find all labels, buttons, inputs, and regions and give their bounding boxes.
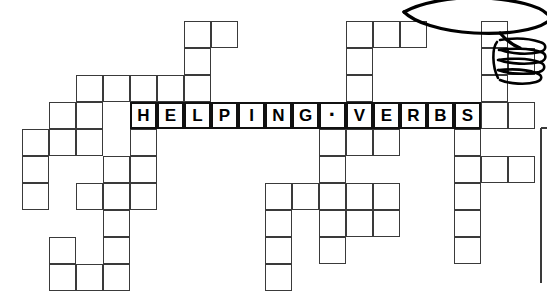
crossword-cell-3-6[interactable]: [103, 183, 130, 210]
crossword-cell-16-4[interactable]: [454, 129, 481, 156]
crossword-cell-6-2[interactable]: [184, 75, 211, 102]
crossword-cell-3-8[interactable]: [103, 237, 130, 264]
crossword-cell-4-6[interactable]: [130, 183, 157, 210]
crossword-cell-letter-13-3[interactable]: E: [373, 102, 400, 129]
crossword-cell-0-4[interactable]: [22, 129, 49, 156]
crossword-cell-4-2[interactable]: [130, 75, 157, 102]
crossword-cell-letter-16-3[interactable]: S: [454, 102, 481, 129]
cell-letter-glyph: ·: [329, 104, 336, 126]
crossword-cell-18-5[interactable]: [508, 156, 535, 183]
crossword-cell-13-7[interactable]: [373, 210, 400, 237]
crossword-cell-17-1[interactable]: [481, 48, 508, 75]
cell-letter-glyph: V: [354, 107, 365, 124]
crossword-cell-16-5[interactable]: [454, 156, 481, 183]
crossword-cell-13-0[interactable]: [373, 21, 400, 48]
crossword-cell-7-0[interactable]: [211, 21, 238, 48]
crossword-cell-12-7[interactable]: [346, 210, 373, 237]
crossword-cell-0-5[interactable]: [22, 156, 49, 183]
crossword-cell-letter-14-3[interactable]: R: [400, 102, 427, 129]
crossword-cell-14-0[interactable]: [400, 21, 427, 48]
crossword-cell-2-3[interactable]: [76, 102, 103, 129]
crossword-cell-12-0[interactable]: [346, 21, 373, 48]
crossword-cell-18-3[interactable]: [508, 102, 535, 129]
crossword-cell-1-9[interactable]: [49, 264, 76, 291]
crossword-cell-letter-7-3[interactable]: P: [211, 102, 238, 129]
crossword-cell-16-6[interactable]: [454, 183, 481, 210]
crossword-cell-letter-10-3[interactable]: G: [292, 102, 319, 129]
crossword-cell-2-6[interactable]: [76, 183, 103, 210]
crossword-cell-11-6[interactable]: [319, 183, 346, 210]
cell-letter-glyph: G: [299, 107, 312, 124]
crossword-cell-12-1[interactable]: [346, 48, 373, 75]
crossword-cell-16-8[interactable]: [454, 237, 481, 264]
crossword-cell-letter-11-3[interactable]: ·: [319, 102, 346, 129]
crossword-cell-letter-5-3[interactable]: E: [157, 102, 184, 129]
crossword-cell-11-4[interactable]: [319, 129, 346, 156]
crossword-cell-1-3[interactable]: [49, 102, 76, 129]
crossword-cell-2-2[interactable]: [76, 75, 103, 102]
crossword-cell-letter-4-3[interactable]: H: [130, 102, 157, 129]
crossword-cell-letter-6-3[interactable]: L: [184, 102, 211, 129]
crossword-cell-3-9[interactable]: [103, 264, 130, 291]
crossword-cell-letter-9-3[interactable]: N: [265, 102, 292, 129]
crossword-cell-10-6[interactable]: [292, 183, 319, 210]
crossword-cell-11-5[interactable]: [319, 156, 346, 183]
crossword-cell-12-6[interactable]: [346, 183, 373, 210]
crossword-cell-0-6[interactable]: [22, 183, 49, 210]
cell-letter-glyph: L: [192, 107, 202, 124]
crossword-cell-3-7[interactable]: [103, 210, 130, 237]
crossword-cell-11-8[interactable]: [319, 237, 346, 264]
crossword-cell-5-2[interactable]: [157, 75, 184, 102]
crossword-cell-3-2[interactable]: [103, 75, 130, 102]
crossword-cell-17-0[interactable]: [481, 21, 508, 48]
crossword-cell-6-1[interactable]: [184, 48, 211, 75]
cell-letter-glyph: R: [407, 107, 419, 124]
cell-letter-glyph: E: [381, 107, 392, 124]
crossword-cell-2-4[interactable]: [76, 129, 103, 156]
cell-letter-glyph: H: [137, 107, 149, 124]
crossword-cell-12-2[interactable]: [346, 75, 373, 102]
crossword-cell-9-9[interactable]: [265, 264, 292, 291]
crossword-cell-3-5[interactable]: [103, 156, 130, 183]
crossword-cell-9-7[interactable]: [265, 210, 292, 237]
crossword-cell-13-4[interactable]: [373, 129, 400, 156]
cell-letter-glyph: P: [219, 107, 230, 124]
crossword-cell-13-6[interactable]: [373, 183, 400, 210]
crossword-cell-9-6[interactable]: [265, 183, 292, 210]
crossword-cell-1-8[interactable]: [49, 237, 76, 264]
crossword-cell-4-5[interactable]: [130, 156, 157, 183]
cell-letter-glyph: I: [249, 107, 254, 124]
cell-letter-glyph: B: [434, 107, 446, 124]
cell-letter-glyph: E: [165, 107, 176, 124]
crossword-cell-1-4[interactable]: [49, 129, 76, 156]
crossword-cell-18-1[interactable]: [508, 48, 535, 75]
crossword-cell-17-2[interactable]: [481, 75, 508, 102]
crossword-cell-6-0[interactable]: [184, 21, 211, 48]
crossword-cell-17-3[interactable]: [481, 102, 508, 129]
crossword-cell-16-7[interactable]: [454, 210, 481, 237]
crossword-cell-letter-15-3[interactable]: B: [427, 102, 454, 129]
cell-letter-glyph: N: [272, 107, 284, 124]
crossword-cell-2-9[interactable]: [76, 264, 103, 291]
crossword-cell-17-5[interactable]: [481, 156, 508, 183]
crossword-cell-12-4[interactable]: [346, 129, 373, 156]
crossword-cell-9-8[interactable]: [265, 237, 292, 264]
crossword-cell-letter-8-3[interactable]: I: [238, 102, 265, 129]
crossword-cell-4-4[interactable]: [130, 129, 157, 156]
crossword-cell-11-7[interactable]: [319, 210, 346, 237]
cell-letter-glyph: S: [462, 107, 473, 124]
crossword-cell-letter-12-3[interactable]: V: [346, 102, 373, 129]
